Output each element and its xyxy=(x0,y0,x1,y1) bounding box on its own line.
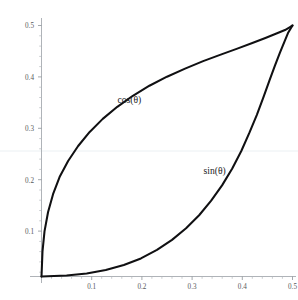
x-tick-label-0.4: 0.4 xyxy=(238,283,247,291)
x-tick-label-0.2: 0.2 xyxy=(137,283,146,291)
y-tick-label-0.5: 0.5 xyxy=(25,22,34,30)
y-tick-label-0.1: 0.1 xyxy=(25,228,34,236)
x-tick-label-0.5: 0.5 xyxy=(288,283,297,291)
y-tick-label-0.4: 0.4 xyxy=(25,74,34,82)
plot-area: 0.5 0.4 0.3 0.2 0.1 xyxy=(0,0,298,300)
x-tick-label-0.1: 0.1 xyxy=(87,283,96,291)
sin-curve-label: sin(θ) xyxy=(204,165,226,177)
cos-curve-label: cos(θ) xyxy=(117,94,141,106)
y-axis: 0.5 0.4 0.3 0.2 0.1 xyxy=(25,18,41,283)
x-axis: 0.1 0.2 0.3 0.4 0.5 xyxy=(30,277,297,292)
annotations-group: cos(θ) sin(θ) xyxy=(117,94,225,176)
y-tick-label-0.2: 0.2 xyxy=(25,177,34,185)
y-tick-label-0.3: 0.3 xyxy=(25,125,34,133)
x-tick-label-0.3: 0.3 xyxy=(188,283,197,291)
chart-figure: 0.5 0.4 0.3 0.2 0.1 xyxy=(0,0,298,300)
